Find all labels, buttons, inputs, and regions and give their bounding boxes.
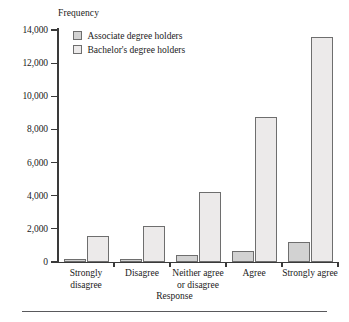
- x-category-label: Agree: [242, 268, 265, 280]
- bar: [87, 236, 109, 262]
- y-tick-label: 8,000: [27, 124, 48, 134]
- y-tick-mark: [51, 162, 57, 163]
- x-tick-mark: [169, 262, 170, 267]
- x-category-label: Neither agreeor disagree: [172, 268, 223, 291]
- x-axis-title: Response: [0, 291, 349, 301]
- x-category-label-line2: disagree: [70, 280, 103, 292]
- x-category-label: Strongly agree: [282, 268, 338, 280]
- chart-legend: Associate degree holders Bachelor's degr…: [73, 29, 185, 57]
- x-tick-mark: [337, 262, 338, 267]
- y-axis-title: Frequency: [58, 8, 99, 18]
- y-tick-label: 12,000: [22, 58, 48, 68]
- legend-label-associate: Associate degree holders: [88, 31, 183, 41]
- legend-swatch-icon-associate: [73, 31, 82, 40]
- y-tick-mark: [51, 228, 57, 229]
- y-tick-mark: [51, 129, 57, 130]
- bar: [288, 242, 310, 262]
- bar: [311, 37, 333, 262]
- y-tick-label: 6,000: [27, 158, 48, 168]
- x-category-label-line1: Disagree: [125, 268, 159, 278]
- y-tick-label: 2,000: [27, 224, 48, 234]
- bar: [64, 259, 86, 262]
- y-axis-line: [57, 28, 59, 263]
- y-tick-mark: [51, 29, 57, 30]
- legend-item-associate: Associate degree holders: [73, 29, 185, 42]
- bar: [255, 117, 277, 262]
- y-tick-mark: [51, 195, 57, 196]
- y-tick-mark: [51, 96, 57, 97]
- x-category-label-line1: Neither agree: [172, 268, 223, 278]
- bar: [176, 255, 198, 262]
- legend-label-bachelors: Bachelor's degree holders: [88, 45, 186, 55]
- x-category-label-line1: Strongly: [70, 268, 103, 278]
- x-category-label-line1: Agree: [242, 268, 265, 278]
- bar: [143, 226, 165, 262]
- x-tick-mark: [225, 262, 226, 267]
- bar-chart-figure: Frequency 02,0004,0006,0008,00010,00012,…: [0, 0, 349, 322]
- y-tick-mark: [51, 63, 57, 64]
- y-tick-label: 0: [43, 257, 48, 267]
- x-category-label-line1: Strongly agree: [282, 268, 338, 278]
- legend-item-bachelors: Bachelor's degree holders: [73, 43, 185, 56]
- x-category-label: Stronglydisagree: [70, 268, 103, 291]
- bar: [199, 192, 221, 262]
- bar: [120, 259, 142, 262]
- y-tick-label: 4,000: [27, 191, 48, 201]
- y-tick-label: 10,000: [22, 91, 48, 101]
- bar: [232, 251, 254, 262]
- x-tick-mark: [113, 262, 114, 267]
- x-tick-mark: [281, 262, 282, 267]
- x-category-label-line2: or disagree: [172, 280, 223, 292]
- y-tick-label: 14,000: [22, 25, 48, 35]
- x-category-label: Disagree: [125, 268, 159, 280]
- y-tick-mark: [51, 261, 57, 262]
- legend-swatch-icon-bachelors: [73, 45, 82, 54]
- bottom-divider: [22, 311, 327, 312]
